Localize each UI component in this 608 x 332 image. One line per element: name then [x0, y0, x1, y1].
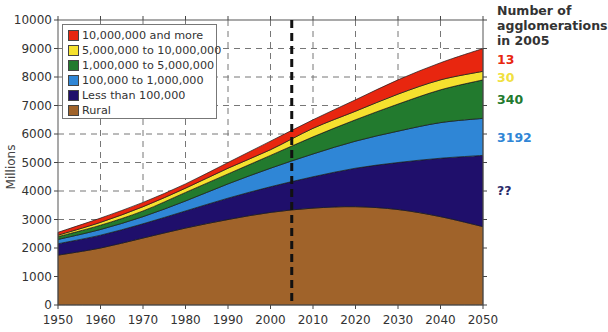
legend-swatch [68, 30, 79, 41]
x-tick-label: 2000 [255, 313, 286, 327]
count-10m-plus: 13 [497, 52, 514, 67]
y-tick-label: 9000 [21, 42, 52, 56]
x-tick-label: 1980 [170, 313, 201, 327]
count-less-100k: ?? [497, 183, 512, 198]
count-1m-5m: 340 [497, 92, 523, 107]
title-line: agglomerations [497, 18, 608, 33]
y-tick-label: 2000 [21, 241, 52, 255]
y-tick-label: 0 [44, 298, 52, 312]
legend-item: 5,000,000 to 10,000,000 [68, 43, 216, 58]
x-tick-label: 2010 [298, 313, 329, 327]
y-tick-label: 10000 [14, 13, 52, 27]
legend-swatch [68, 75, 79, 86]
legend-label: 5,000,000 to 10,000,000 [82, 44, 221, 57]
y-tick-label: 1000 [21, 270, 52, 284]
legend-swatch [68, 60, 79, 71]
agglomerations-title: Number of agglomerations in 2005 [497, 3, 608, 48]
legend-label: Rural [82, 104, 111, 117]
x-tick-label: 1990 [213, 313, 244, 327]
legend-item: 10,000,000 and more [68, 28, 216, 43]
x-tick-label: 2030 [383, 313, 414, 327]
legend-item: Less than 100,000 [68, 88, 216, 103]
legend-swatch [68, 45, 79, 56]
x-tick-label: 1950 [43, 313, 74, 327]
legend-label: 1,000,000 to 5,000,000 [82, 59, 214, 72]
legend-item: Rural [68, 103, 216, 118]
count-100k-1m: 3192 [497, 130, 532, 145]
legend: 10,000,000 and more 5,000,000 to 10,000,… [62, 24, 217, 119]
legend-item: 100,000 to 1,000,000 [68, 73, 216, 88]
title-line: Number of [497, 3, 608, 18]
x-tick-label: 1960 [85, 313, 116, 327]
x-tick-label: 2020 [340, 313, 371, 327]
y-tick-label: 3000 [21, 213, 52, 227]
title-line: in 2005 [497, 33, 608, 48]
legend-label: 10,000,000 and more [82, 29, 203, 42]
legend-label: Less than 100,000 [82, 89, 185, 102]
legend-item: 1,000,000 to 5,000,000 [68, 58, 216, 73]
x-tick-label: 1970 [128, 313, 159, 327]
x-tick-label: 2040 [425, 313, 456, 327]
y-tick-label: 4000 [21, 184, 52, 198]
count-5m-10m: 30 [497, 70, 514, 85]
legend-swatch [68, 90, 79, 101]
y-tick-label: 8000 [21, 70, 52, 84]
y-tick-label: 6000 [21, 127, 52, 141]
y-tick-label: 7000 [21, 99, 52, 113]
x-tick-label: 2050 [468, 313, 499, 327]
legend-label: 100,000 to 1,000,000 [82, 74, 204, 87]
legend-swatch [68, 105, 79, 116]
y-tick-label: 5000 [21, 156, 52, 170]
y-axis-label: Millions [4, 145, 18, 190]
